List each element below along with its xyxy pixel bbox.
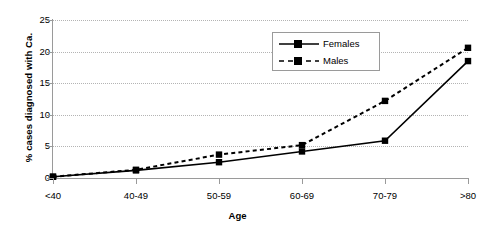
x-axis-tick: [385, 178, 386, 184]
y-axis-tick: [47, 146, 53, 147]
y-axis-tick: [47, 52, 53, 53]
y-axis-tick: [47, 20, 53, 21]
x-axis-tick-label: 40-49: [106, 190, 166, 201]
series-line-females: [53, 61, 468, 177]
legend-label-females: Females: [323, 38, 359, 49]
data-point-marker-females: [299, 148, 305, 154]
x-axis-tick-label: >80: [438, 190, 481, 201]
legend-sample-solid-line-icon: [277, 37, 321, 51]
x-axis-tick-label: 70-79: [355, 190, 415, 201]
legend-sample-dashed-line-icon: [277, 54, 321, 68]
data-point-marker-males: [133, 167, 139, 173]
x-axis-tick: [302, 178, 303, 184]
legend-item-males[interactable]: Males: [277, 52, 377, 69]
y-axis-tick: [47, 115, 53, 116]
data-point-marker-females: [382, 138, 388, 144]
y-axis-tick: [47, 83, 53, 84]
x-axis-tick-label: 50-59: [189, 190, 249, 201]
legend-item-females[interactable]: Females: [277, 35, 377, 52]
data-point-marker-males: [216, 151, 222, 157]
data-point-marker-females: [465, 58, 471, 64]
x-axis-tick: [53, 178, 54, 184]
data-point-marker-males: [382, 98, 388, 104]
legend-label-males: Males: [323, 55, 348, 66]
x-axis-tick-label: 60-69: [272, 190, 332, 201]
data-point-marker-females: [216, 159, 222, 165]
x-axis-tick: [468, 178, 469, 184]
legend: Females Males: [272, 32, 380, 71]
data-point-marker-males: [299, 142, 305, 148]
x-axis-title: Age: [0, 210, 475, 221]
data-point-marker-males: [465, 45, 471, 51]
x-axis-tick: [136, 178, 137, 184]
x-axis-tick: [219, 178, 220, 184]
x-axis-tick-label: <40: [23, 190, 83, 201]
